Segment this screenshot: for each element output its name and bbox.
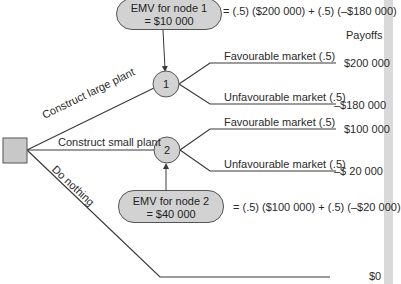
node-2-favourable-label: Favourable market (.5) xyxy=(224,116,335,128)
payoff-node-1-unfavourable: –$180 000 xyxy=(334,99,386,111)
payoff-node-2-favourable: $100 000 xyxy=(344,123,390,135)
node-1-unfavourable-label: Unfavourable market (.5) xyxy=(224,91,346,103)
node-1-favourable-label: Favourable market (.5) xyxy=(224,50,335,62)
decision-node-square xyxy=(3,138,27,163)
node-2-unfavourable-label: Unfavourable market (.5) xyxy=(224,158,346,170)
emv-box-node-1: EMV for node 1 = $10 000 xyxy=(116,0,222,30)
outcome-line-node1-favourable xyxy=(179,63,336,84)
right-edge-strip xyxy=(384,0,393,284)
emv-node-2-formula: = (.5) ($100 000) + (.5) (–$20 000) xyxy=(233,201,401,213)
emv-node-1-formula: = (.5) ($200 000) + (.5) (–$180 000) xyxy=(223,5,397,17)
payoff-node-1-favourable: $200 000 xyxy=(344,57,390,69)
outcome-line-node2-favourable xyxy=(180,129,336,150)
emv-node-2-value: = $40 000 xyxy=(119,208,223,221)
payoff-node-2-unfavourable: –$ 20 000 xyxy=(334,165,383,177)
branch-label-small-plant: Construct small plant xyxy=(58,136,161,148)
emv1-arrow xyxy=(163,30,165,69)
emv-node-1-value: = $10 000 xyxy=(117,15,221,28)
payoffs-header: Payoffs xyxy=(346,29,383,41)
node-1-number: 1 xyxy=(153,78,179,90)
emv-box-node-2: EMV for node 2 = $40 000 xyxy=(118,190,224,223)
emv-node-2-title: EMV for node 2 xyxy=(119,195,223,208)
payoff-do-nothing: $0 xyxy=(369,270,381,282)
emv-node-1-title: EMV for node 1 xyxy=(117,2,221,15)
